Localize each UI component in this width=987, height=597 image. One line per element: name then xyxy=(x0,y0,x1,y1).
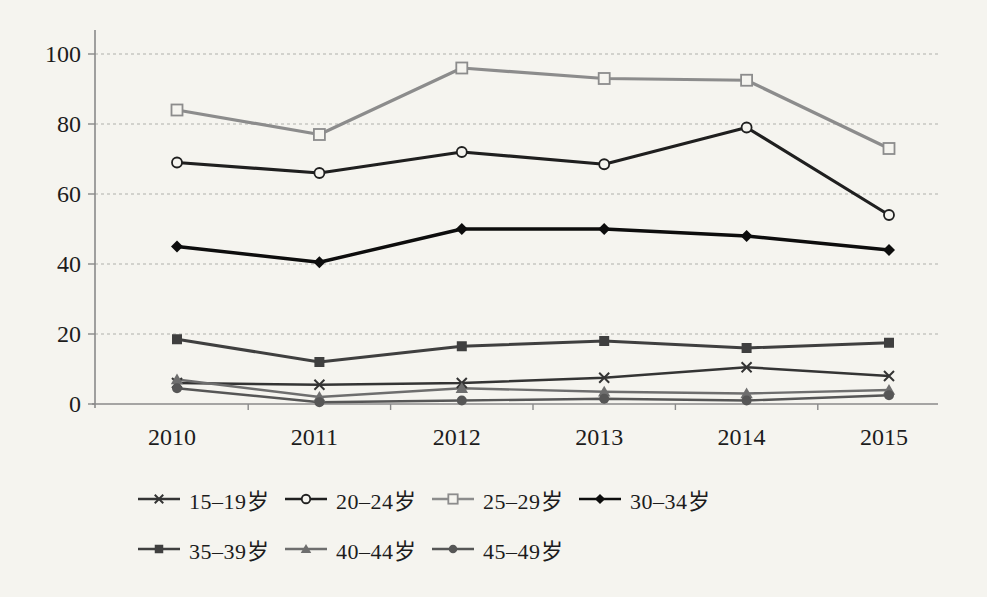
series-markers-25–29岁 xyxy=(172,63,895,155)
x-tick-label: 2011 xyxy=(291,424,338,450)
x-tick-label: 2013 xyxy=(575,424,623,450)
legend-label: 30–34岁 xyxy=(630,483,710,515)
series-markers-15–19岁 xyxy=(172,362,894,390)
legend-item-30–34岁: 30–34岁 xyxy=(577,483,710,515)
legend-item-40–44岁: 40–44岁 xyxy=(283,533,416,565)
y-axis-labels: 020406080100 xyxy=(45,41,81,417)
legend-label: 25–29岁 xyxy=(483,483,563,515)
legend-item-45–49岁: 45–49岁 xyxy=(430,533,563,565)
x-tick-label: 2015 xyxy=(860,424,908,450)
legend-item-25–29岁: 25–29岁 xyxy=(430,483,563,515)
x-tick-label: 2012 xyxy=(433,424,481,450)
age-group-line-chart: 020406080100201020112012201320142015 xyxy=(0,0,987,474)
series-line-25–29岁 xyxy=(177,68,889,149)
series-line-30–34岁 xyxy=(177,229,889,262)
legend-label: 35–39岁 xyxy=(189,533,269,565)
y-tick-label: 0 xyxy=(69,391,81,417)
series-line-20–24岁 xyxy=(177,128,889,216)
legend-marker-square-icon xyxy=(136,540,182,558)
legend-marker-x-icon xyxy=(136,490,182,508)
legend-item-20–24岁: 20–24岁 xyxy=(283,483,416,515)
legend-item-15–19岁: 15–19岁 xyxy=(136,483,269,515)
legend-marker-circle-open-icon xyxy=(283,490,329,508)
series-line-35–39岁 xyxy=(177,339,889,362)
x-axis-labels: 201020112012201320142015 xyxy=(148,424,908,450)
legend-row: 15–19岁20–24岁25–29岁30–34岁 xyxy=(0,474,987,524)
legend-label: 15–19岁 xyxy=(189,483,269,515)
legend-marker-square-open-icon xyxy=(430,490,476,508)
gridlines xyxy=(95,54,938,334)
legend-item-35–39岁: 35–39岁 xyxy=(136,533,269,565)
legend-marker-triangle-icon xyxy=(283,540,329,558)
scanned-document-page: 020406080100201020112012201320142015 15–… xyxy=(0,0,987,597)
x-tick-label: 2010 xyxy=(148,424,196,450)
legend-label: 40–44岁 xyxy=(336,533,416,565)
legend-label: 20–24岁 xyxy=(336,483,416,515)
chart-legend: 15–19岁20–24岁25–29岁30–34岁35–39岁40–44岁45–4… xyxy=(0,474,987,574)
series-line-40–44岁 xyxy=(177,380,889,398)
axes xyxy=(88,30,938,410)
series-line-15–19岁 xyxy=(177,367,889,385)
legend-marker-diamond-icon xyxy=(577,490,623,508)
legend-row: 35–39岁40–44岁45–49岁 xyxy=(0,524,987,574)
series-markers-35–39岁 xyxy=(172,334,894,367)
legend-marker-circle-icon xyxy=(430,540,476,558)
y-tick-label: 100 xyxy=(45,41,81,67)
y-tick-label: 60 xyxy=(57,181,81,207)
y-tick-label: 40 xyxy=(57,251,81,277)
x-tick-label: 2014 xyxy=(718,424,766,450)
y-tick-label: 80 xyxy=(57,111,81,137)
legend-label: 45–49岁 xyxy=(483,533,563,565)
y-tick-label: 20 xyxy=(57,321,81,347)
